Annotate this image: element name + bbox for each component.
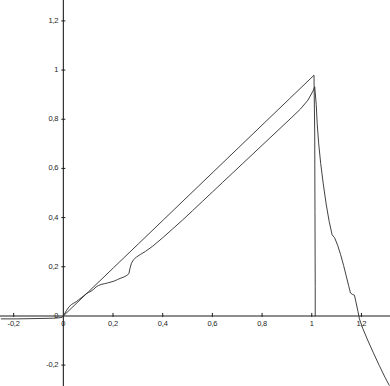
chart-container: -0,200,20,40,60,811,2-0,200,20,40,60,811… <box>0 0 390 386</box>
x-tick-label: 1,2 <box>357 320 367 328</box>
data-series <box>1 75 389 385</box>
y-tick-label: 0,6 <box>49 165 59 173</box>
y-tick-label: 0,4 <box>49 214 59 222</box>
y-tick-label: 1,2 <box>49 17 59 25</box>
x-tick-label: -0,2 <box>8 320 20 328</box>
x-tick-label: 0,8 <box>257 320 267 328</box>
x-tick-label: 1 <box>310 320 314 328</box>
x-tick-label: 0,4 <box>158 320 168 328</box>
x-tick-label: 0,2 <box>108 320 118 328</box>
x-tick-label: 0,6 <box>207 320 217 328</box>
y-tick-label: 1 <box>54 66 58 74</box>
series-empirical-curve <box>1 87 389 385</box>
y-tick-label: 0,2 <box>49 263 59 271</box>
series-reference-line <box>63 75 315 316</box>
plot-area <box>0 0 390 386</box>
axis-lines <box>0 0 390 386</box>
x-tick-label: 0 <box>61 320 65 328</box>
y-tick-label: -0,2 <box>46 361 58 369</box>
y-tick-label: 0,8 <box>49 115 59 123</box>
y-tick-label: 0 <box>54 312 58 320</box>
